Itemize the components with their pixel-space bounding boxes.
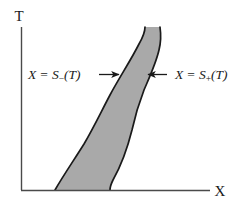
right-curve-label: X=S+(T): [174, 67, 228, 84]
phase-diagram-figure: T X X=S−(T) X=S+(T): [0, 0, 249, 208]
right-label-argument: (T): [211, 67, 228, 82]
x-axis-label: X: [215, 183, 226, 199]
y-axis-label: T: [14, 8, 23, 24]
right-label-equals: =: [187, 67, 195, 82]
right-label-variable: X: [174, 67, 184, 82]
left-label-argument: (T): [64, 67, 81, 82]
left-curve-label: X=S−(T): [27, 67, 81, 84]
left-label-equals: =: [40, 67, 48, 82]
left-label-variable: X: [27, 67, 37, 82]
diagram-canvas: T X X=S−(T) X=S+(T): [0, 0, 249, 208]
